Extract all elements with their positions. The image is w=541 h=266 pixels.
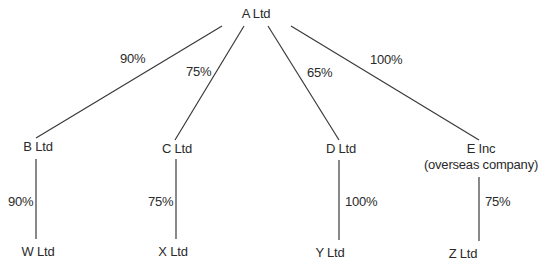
node-d-ltd: D Ltd [326,142,356,156]
edge-a-c [175,26,244,140]
edge-a-b [36,26,222,138]
node-x-ltd: X Ltd [158,245,187,259]
node-b-ltd: B Ltd [23,140,52,154]
node-z-ltd: Z Ltd [449,247,478,261]
pct-c-x: 75% [148,195,173,209]
node-y-ltd: Y Ltd [315,246,344,260]
pct-a-b: 90% [120,52,145,66]
edge-a-d [268,26,339,140]
node-a-ltd: A Ltd [242,7,271,21]
pct-a-c: 75% [186,65,211,79]
pct-e-z: 75% [485,195,510,209]
node-c-ltd: C Ltd [162,142,192,156]
edge-a-e [291,26,479,140]
pct-d-y: 100% [345,195,377,209]
pct-a-d: 65% [307,66,332,80]
pct-a-e: 100% [370,53,402,67]
node-e-inc: E Inc [467,142,496,156]
node-e-inc-sublabel: (overseas company) [424,158,538,172]
connector-lines [0,0,541,266]
pct-b-w: 90% [8,195,33,209]
node-w-ltd: W Ltd [22,245,55,259]
